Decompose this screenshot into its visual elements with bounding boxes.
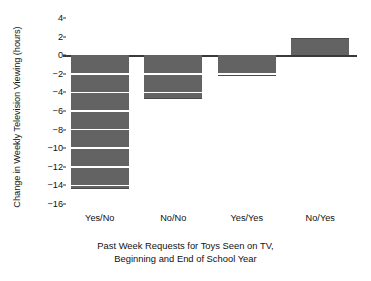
bar-gridline-cut: [71, 73, 129, 75]
y-tick-label: −8: [37, 125, 63, 135]
bar-gridline-cut: [71, 166, 129, 168]
y-tick-label: 4: [37, 13, 63, 23]
y-tick-label: 0: [37, 50, 63, 60]
bar-gridline-cut: [144, 92, 202, 94]
y-tick-label: −12: [37, 162, 63, 172]
x-axis-title-line-2: Beginning and End of School Year: [0, 253, 371, 264]
x-axis-title-line-1: Past Week Requests for Toys Seen on TV,: [0, 240, 371, 251]
bar-gridline-cut: [71, 92, 129, 94]
x-category-label: No/No: [160, 213, 186, 223]
plot-area: [63, 18, 357, 204]
bar-gridline-cut: [71, 147, 129, 149]
bar-gridline-cut: [218, 73, 276, 75]
y-tick-label: 2: [37, 32, 63, 42]
y-tick-label: −14: [37, 180, 63, 190]
x-category-label: No/Yes: [306, 213, 335, 223]
bar-gridline-cut: [71, 185, 129, 187]
bar-end-cap: [71, 188, 129, 189]
y-tick-label: −2: [37, 69, 63, 79]
bar-end-cap: [291, 38, 349, 39]
y-axis-ticks: 420−2−4−6−8−10−12−14−16: [33, 18, 63, 204]
x-category-label: Yes/No: [85, 213, 114, 223]
y-axis-title: Change in Weekly Television Viewing (hou…: [12, 12, 22, 222]
y-tick-label: −16: [37, 199, 63, 209]
bar: [291, 38, 349, 56]
bar-gridline-cut: [71, 110, 129, 112]
bar-gridline-cut: [144, 73, 202, 75]
y-tick-label: −4: [37, 87, 63, 97]
bar-chart: Change in Weekly Television Viewing (hou…: [0, 0, 371, 281]
bar: [71, 55, 129, 189]
x-category-label: Yes/Yes: [230, 213, 263, 223]
y-tick-label: −6: [37, 106, 63, 116]
bar-gridline-cut: [71, 129, 129, 131]
bar-end-cap: [144, 98, 202, 99]
y-tick-label: −10: [37, 143, 63, 153]
bar-end-cap: [218, 74, 276, 75]
